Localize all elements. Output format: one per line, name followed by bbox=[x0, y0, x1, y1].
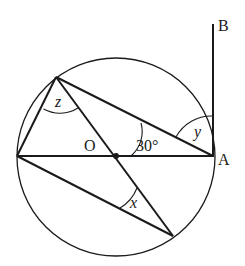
chord-lt bbox=[17, 77, 56, 156]
circle-geometry-diagram: B A O 30° z y x bbox=[0, 0, 245, 266]
center-point-o bbox=[113, 153, 119, 159]
label-o: O bbox=[84, 137, 96, 154]
label-angle-x: x bbox=[129, 194, 137, 211]
label-a: A bbox=[218, 151, 230, 168]
label-angle-30: 30° bbox=[136, 137, 158, 154]
chord-ta bbox=[56, 77, 213, 156]
label-angle-y: y bbox=[192, 123, 202, 141]
label-angle-z: z bbox=[54, 93, 62, 110]
chord-ld bbox=[17, 156, 173, 236]
label-b: B bbox=[218, 17, 229, 34]
